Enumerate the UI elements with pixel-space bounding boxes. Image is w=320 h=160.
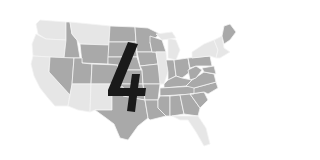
state-me (222, 24, 236, 44)
state-mi (168, 38, 180, 60)
number-four-overlay (100, 38, 160, 118)
number-four-icon (108, 42, 146, 112)
state-fl (172, 116, 210, 146)
state-az (68, 84, 91, 112)
state-oh (174, 58, 190, 78)
state-ny (192, 40, 218, 58)
